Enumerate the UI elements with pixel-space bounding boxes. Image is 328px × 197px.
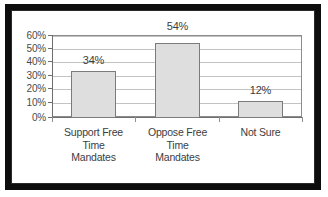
- bar-oppose-free-time-mandates: [155, 43, 200, 118]
- x-tick-0: [52, 117, 53, 122]
- y-tick-label-60: 60%: [27, 30, 46, 41]
- y-tick-label-0: 0%: [32, 112, 46, 123]
- category-label-oppose-line2: Time: [133, 139, 222, 152]
- bar-support-free-time-mandates: [71, 71, 116, 118]
- x-tick-3: [302, 117, 303, 122]
- y-tick-label-10: 10%: [27, 97, 46, 108]
- value-label-support: 34%: [66, 54, 121, 66]
- y-tick-label-20: 20%: [27, 83, 46, 94]
- y-tick-label-40: 40%: [27, 56, 46, 67]
- category-label-support-line2: Time: [49, 139, 138, 152]
- y-tick-label-30: 30%: [27, 70, 46, 81]
- category-label-oppose: Oppose Free Time Mandates: [133, 126, 222, 164]
- y-axis-line: [52, 35, 53, 118]
- image-border-frame: 60% 50% 40% 30% 20% 10%: [5, 4, 321, 190]
- bar-chart: 60% 50% 40% 30% 20% 10%: [11, 10, 327, 196]
- category-label-not-sure-line1: Not Sure: [216, 126, 305, 139]
- y-tick-mark-30: [48, 75, 52, 76]
- category-label-oppose-line1: Oppose Free: [133, 126, 222, 139]
- y-tick-mark-60: [48, 35, 52, 36]
- y-tick-label-50: 50%: [27, 43, 46, 54]
- y-tick-mark-10: [48, 102, 52, 103]
- category-label-oppose-line3: Mandates: [133, 151, 222, 164]
- x-tick-1: [135, 117, 136, 122]
- y-tick-mark-40: [48, 61, 52, 62]
- category-label-not-sure: Not Sure: [216, 126, 305, 139]
- y-tick-mark-20: [48, 88, 52, 89]
- value-label-oppose: 54%: [150, 20, 205, 32]
- y-tick-mark-50: [48, 48, 52, 49]
- category-label-support-line3: Mandates: [49, 151, 138, 164]
- chart-screenshot: 60% 50% 40% 30% 20% 10%: [0, 0, 328, 197]
- value-label-not-sure: 12%: [233, 84, 288, 96]
- gridline-60: [52, 36, 301, 37]
- bar-not-sure: [238, 101, 283, 118]
- x-tick-2: [219, 117, 220, 122]
- category-label-support: Support Free Time Mandates: [49, 126, 138, 164]
- category-label-support-line1: Support Free: [49, 126, 138, 139]
